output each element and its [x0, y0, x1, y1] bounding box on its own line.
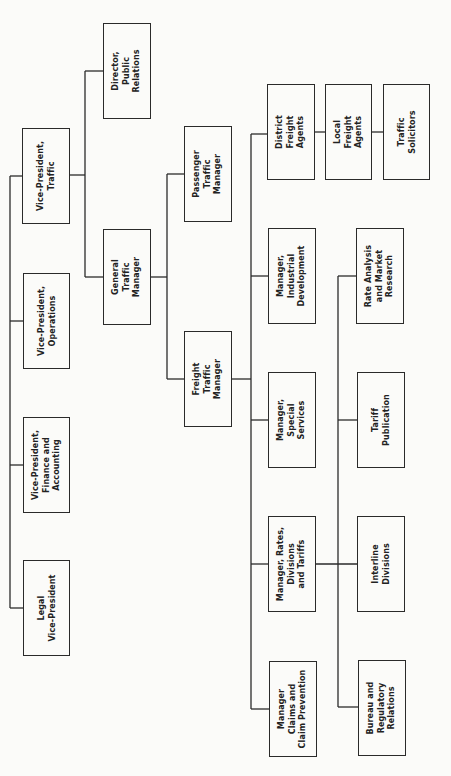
- org-box-label: Passenger Traffic Manager: [192, 150, 224, 198]
- org-box-rate-analysis: Rate Analysis and Market Research: [356, 228, 404, 324]
- org-box-label: Legal Vice-President: [36, 574, 57, 641]
- org-box-label: Manager Claims and Claim Prevention: [277, 670, 309, 749]
- org-box-label: Manager, Special Services: [276, 399, 308, 441]
- org-chart: Vice-President, TrafficVice-President, O…: [0, 0, 451, 776]
- org-box-local-freight-agents: Local Freight Agents: [325, 84, 372, 180]
- org-box-label: Tariff Publication: [371, 394, 392, 446]
- org-box-vp-operations: Vice-President, Operations: [23, 273, 70, 369]
- org-box-label: Vice-President, Operations: [36, 286, 57, 356]
- org-box-traffic-solicitors: Traffic Solicitors: [383, 84, 430, 180]
- org-box-freight-traffic-mgr: Freight Traffic Manager: [184, 331, 232, 427]
- org-box-legal-vp: Legal Vice-President: [23, 560, 70, 656]
- org-box-label: Interline Divisions: [371, 543, 392, 585]
- org-box-label: Manager, Industrial Development: [276, 245, 308, 306]
- org-box-label: Vice-President, Traffic: [36, 141, 57, 211]
- org-box-district-freight-agents: District Freight Agents: [267, 84, 315, 180]
- org-box-label: Traffic Solicitors: [396, 110, 417, 153]
- org-box-interline-divisions: Interline Divisions: [357, 516, 405, 612]
- org-box-mgr-industrial-dev: Manager, Industrial Development: [268, 228, 316, 324]
- org-box-passenger-traffic-mgr: Passenger Traffic Manager: [184, 126, 232, 222]
- org-box-tariff-publication: Tariff Publication: [357, 372, 405, 468]
- org-box-label: Freight Traffic Manager: [192, 359, 224, 399]
- org-box-label: Bureau and Regulatory Relations: [366, 682, 398, 735]
- org-box-label: Local Freight Agents: [333, 115, 365, 148]
- org-box-label: Rate Analysis and Market Research: [364, 245, 396, 307]
- org-box-vp-traffic: Vice-President, Traffic: [22, 128, 70, 224]
- org-box-label: District Freight Agents: [275, 115, 307, 149]
- org-box-bureau-regulatory: Bureau and Regulatory Relations: [358, 660, 406, 756]
- org-box-mgr-claims: Manager Claims and Claim Prevention: [269, 661, 317, 757]
- org-box-mgr-special-services: Manager, Special Services: [268, 372, 316, 468]
- org-box-director-pr: Director, Public Relations: [103, 23, 151, 119]
- org-box-label: General Traffic Manager: [111, 257, 143, 297]
- org-box-mgr-rates-divisions-tariffs: Manager, Rates, Divisions and Tariffs: [268, 516, 316, 612]
- org-box-vp-finance: Vice-President, Finance and Accounting: [23, 417, 70, 513]
- org-box-label: Vice-President, Finance and Accounting: [31, 430, 63, 500]
- org-box-label: Manager, Rates, Divisions and Tariffs: [276, 527, 308, 601]
- org-box-label: Director, Public Relations: [111, 49, 143, 92]
- org-box-general-traffic-mgr: General Traffic Manager: [103, 229, 151, 325]
